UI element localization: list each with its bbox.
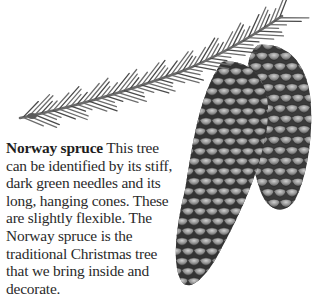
cone-scale: [199, 278, 212, 286]
cone-scale: [229, 228, 242, 236]
cone-scale: [163, 118, 176, 126]
cone-scale: [243, 199, 256, 208]
cone-scale: [217, 268, 230, 276]
caption: Norway spruce This tree can be identifie…: [6, 139, 181, 297]
cone-scale: [297, 42, 310, 51]
needle: [238, 44, 253, 45]
cone-scale: [175, 118, 188, 126]
cone-scale: [249, 189, 262, 198]
cone-scale: [253, 248, 266, 256]
cone-scale: [253, 228, 266, 236]
needle: [227, 50, 257, 53]
needle: [95, 100, 117, 107]
needle: [248, 38, 273, 40]
cone-scale: [241, 268, 254, 276]
cone-scale: [259, 258, 272, 266]
cone-scale: [265, 268, 278, 276]
caption-title: Norway spruce: [6, 139, 103, 156]
cone-scale: [241, 208, 254, 216]
needle: [130, 89, 144, 93]
needle: [65, 108, 88, 116]
cone-scale: [241, 248, 254, 256]
cone-scale: [229, 248, 242, 256]
needle: [194, 66, 216, 70]
cone-scale: [259, 278, 272, 286]
cone-scale: [253, 268, 266, 276]
cone-scale: [247, 198, 260, 206]
cone-scale: [235, 258, 248, 266]
cone-scale: [211, 258, 224, 266]
cone-scale: [235, 278, 248, 286]
needle: [83, 103, 107, 111]
needle: [259, 31, 282, 32]
cone-scale: [163, 98, 176, 106]
cone-scale: [291, 199, 304, 208]
needle: [279, 0, 290, 18]
cone-scale: [247, 238, 260, 246]
cone-scale: [175, 98, 188, 106]
cone-scale: [303, 52, 316, 61]
cone-scale: [193, 88, 206, 96]
cone-scale: [303, 199, 316, 208]
cone-scale: [297, 189, 310, 198]
cone-scale: [265, 248, 278, 256]
cone-scale: [187, 98, 200, 106]
needle: [53, 111, 75, 119]
cone-scale: [217, 248, 230, 256]
cone-scale: [211, 278, 224, 286]
branch-bud: [27, 113, 37, 119]
cone-scale: [181, 108, 194, 116]
cone-scale: [235, 238, 248, 246]
needle: [182, 71, 199, 75]
cone-scale: [253, 208, 266, 216]
cone-scale: [247, 278, 260, 286]
needle: [159, 79, 173, 83]
cone-scale: [181, 128, 194, 136]
cone-scale: [303, 178, 316, 187]
cone-scale: [223, 238, 236, 246]
needle: [148, 83, 176, 91]
needle: [171, 75, 199, 83]
cone-scale: [181, 88, 194, 96]
cone-scale: [169, 88, 182, 96]
cone-scale: [259, 238, 272, 246]
cone-scale: [169, 108, 182, 116]
needle: [188, 69, 202, 72]
needle: [232, 47, 256, 49]
cone-scale: [229, 268, 242, 276]
cone-scale: [241, 228, 254, 236]
needle: [254, 34, 284, 35]
cone-scale: [255, 199, 268, 208]
needle: [211, 58, 227, 60]
cone-scale: [247, 258, 260, 266]
needle: [222, 53, 246, 56]
cone-scale: [247, 218, 260, 226]
cone-scale: [223, 258, 236, 266]
cone-scale: [259, 218, 272, 226]
needle: [216, 56, 231, 58]
cone-scale: [285, 42, 298, 51]
cone-scale: [265, 228, 278, 236]
cone-scale: [169, 128, 182, 136]
needle: [142, 85, 169, 93]
caption-body: This tree can be identified by its stiff…: [6, 139, 172, 297]
cone-scale: [235, 218, 248, 226]
cone-scale: [223, 278, 236, 286]
needle: [112, 94, 138, 102]
needle: [243, 41, 259, 42]
cone-scale: [205, 268, 218, 276]
